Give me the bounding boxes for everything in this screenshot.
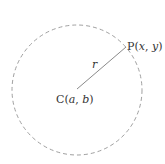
- radius-label: r: [92, 58, 98, 71]
- circle-outline: [12, 25, 142, 155]
- center-label: C(a, b): [56, 93, 94, 106]
- point-label: P(x, y): [127, 40, 162, 53]
- circle-diagram: r C(a, b) P(x, y): [0, 0, 165, 164]
- radius-line: [77, 47, 126, 89]
